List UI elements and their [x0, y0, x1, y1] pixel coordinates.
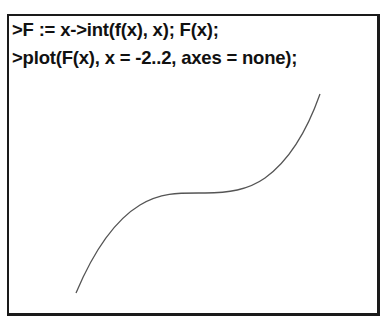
function-curve-F — [76, 94, 320, 293]
plot-curve — [0, 0, 386, 317]
